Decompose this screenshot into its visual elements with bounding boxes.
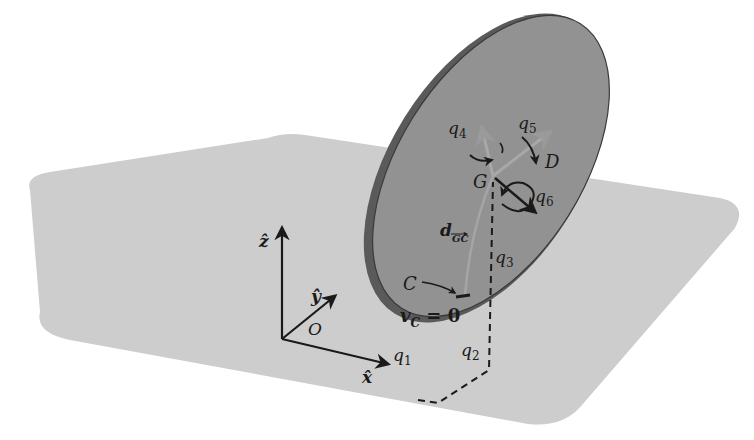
rolling-disk-diagram: ẑ ŷ x̂ O q1 q2 q3 q4 q5 q6 G D C dGC vC … (0, 0, 754, 440)
center-point-label: G (473, 171, 487, 192)
contact-point-label: C (403, 273, 417, 294)
y-axis-label: ŷ (310, 286, 322, 306)
origin-label: O (308, 319, 322, 339)
z-axis-label: ẑ (258, 231, 269, 251)
disk-label: D (544, 151, 560, 172)
x-axis-label: x̂ (361, 367, 373, 387)
contact-point-mark (456, 295, 470, 297)
